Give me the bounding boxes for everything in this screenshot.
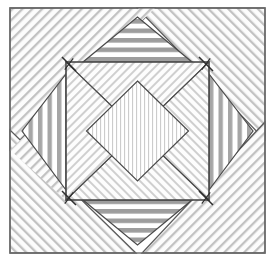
quilt-block-figure: [0, 0, 275, 262]
quilt-svg-canvas: [0, 0, 275, 262]
